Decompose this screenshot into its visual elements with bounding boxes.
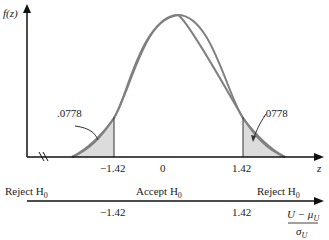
y-axis-label: f(z)	[3, 8, 18, 19]
decision-tick-1-42: 1.42	[232, 207, 251, 218]
left-area-pointer	[75, 126, 98, 140]
accept-label: Accept H0	[136, 186, 182, 200]
statistic-numerator: U − μU	[287, 209, 319, 223]
x-axis-arrow-icon	[314, 153, 324, 161]
y-axis-arrow-icon	[23, 4, 31, 13]
decision-axis-arrow-icon	[314, 197, 324, 205]
right-tail-area: .0778	[263, 108, 288, 119]
tick-zero: 0	[160, 163, 166, 174]
x-axis-label: z	[317, 163, 321, 174]
decision-tick-neg-1-42: −1.42	[100, 207, 125, 218]
tick-1-42: 1.42	[232, 163, 251, 174]
reject-left-label: Reject H0	[5, 186, 48, 200]
right-tail-shade	[243, 118, 285, 157]
normal-curve-diagram	[0, 0, 329, 240]
left-tail-shade	[72, 118, 114, 157]
statistic-denominator: σU	[296, 226, 307, 240]
left-tail-area: .0778	[57, 108, 82, 119]
tick-neg-1-42: −1.42	[100, 163, 125, 174]
reject-right-label: Reject H0	[257, 186, 300, 200]
